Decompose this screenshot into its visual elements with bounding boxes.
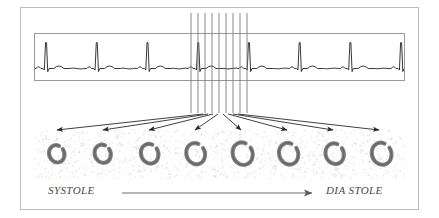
frame-image-6 (266, 129, 312, 179)
cardiac-phase-axis: SYSTOLE DIA STOLE (34, 182, 405, 206)
ventricular-frame-strip (34, 129, 405, 179)
ventricular-frame-4 (173, 129, 219, 179)
ecg-rhythm-strip (34, 33, 405, 81)
systole-label: SYSTOLE (48, 184, 95, 196)
ventricular-frame-1 (34, 129, 80, 179)
ecg-waveform-path (35, 43, 404, 72)
frame-image-7 (312, 129, 358, 179)
gated-blood-pool-figure: SYSTOLE DIA STOLE (0, 0, 439, 218)
frame-image-3 (127, 129, 173, 179)
frame-image-4 (173, 129, 219, 179)
frame-image-5 (220, 129, 266, 179)
ventricular-frame-2 (80, 129, 126, 179)
frame-image-8 (359, 129, 405, 179)
ventricular-frame-5 (220, 129, 266, 179)
frame-image-1 (34, 129, 80, 179)
ventricular-frame-6 (266, 129, 312, 179)
frame-image-2 (80, 129, 126, 179)
ecg-trace (35, 34, 404, 80)
ventricular-frame-8 (359, 129, 405, 179)
ventricular-frame-3 (127, 129, 173, 179)
phase-direction-arrow (122, 186, 322, 200)
diastole-label: DIA STOLE (326, 184, 383, 196)
ventricular-frame-7 (312, 129, 358, 179)
